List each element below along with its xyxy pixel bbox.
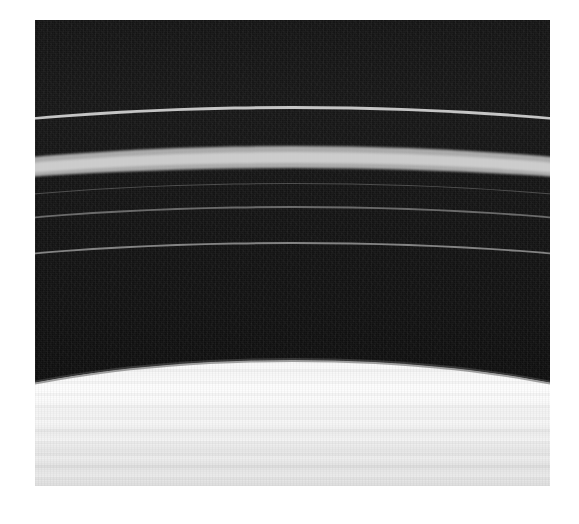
image-caption bbox=[0, 0, 1, 1]
film-grain-overlay bbox=[35, 20, 550, 380]
ring-sheet-grain bbox=[35, 360, 550, 486]
ring-system-photograph bbox=[35, 20, 550, 486]
bright-ring-sheet bbox=[35, 360, 550, 486]
screenshot-root bbox=[0, 0, 579, 524]
dark-ring-gap-region bbox=[35, 20, 550, 380]
ring-sheet-banding bbox=[35, 360, 550, 486]
